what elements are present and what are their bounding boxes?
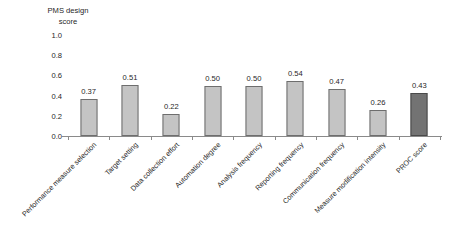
bar-value-label: 0.26 (371, 99, 386, 107)
y-axis-title: PMS design score (26, 6, 110, 27)
bar-group: 0.26 (357, 36, 398, 136)
x-axis-category-label: PROC score (395, 141, 429, 175)
plot-area: 0.00.20.40.60.81.0 0.370.510.220.500.500… (68, 36, 440, 137)
bar[interactable] (411, 93, 428, 136)
bar-series: 0.370.510.220.500.500.540.470.260.43 (68, 36, 440, 136)
bar[interactable] (369, 110, 386, 136)
bar-group: 0.43 (399, 36, 440, 136)
bar-value-label: 0.51 (123, 74, 138, 82)
bar[interactable] (328, 89, 345, 136)
bar[interactable] (204, 86, 221, 137)
bar-group: 0.47 (316, 36, 357, 136)
y-axis-tick-label: 0.6 (51, 72, 62, 80)
bar-group: 0.37 (68, 36, 109, 136)
bar-value-label: 0.37 (81, 88, 96, 96)
bar-value-label: 0.50 (247, 75, 262, 83)
bar[interactable] (287, 81, 304, 136)
x-axis-category-label: Performance measure selection (21, 141, 98, 218)
bar-chart: PMS design score 0.00.20.40.60.81.0 0.37… (0, 0, 451, 239)
x-axis-category-label: Target setting (103, 141, 139, 177)
y-axis-tick-label: 0.4 (51, 93, 62, 101)
bar-group: 0.51 (109, 36, 150, 136)
x-axis-category-labels: Performance measure selectionTarget sett… (68, 137, 440, 237)
bar-value-label: 0.54 (288, 70, 303, 78)
bar-value-label: 0.22 (164, 103, 179, 111)
bar-value-label: 0.47 (329, 78, 344, 86)
bar-value-label: 0.50 (205, 75, 220, 83)
bar[interactable] (245, 86, 262, 137)
bar-group: 0.54 (275, 36, 316, 136)
y-axis-tick-label: 0.2 (51, 113, 62, 121)
bar-group: 0.50 (233, 36, 274, 136)
bar[interactable] (121, 85, 138, 137)
y-axis-tick-label: 1.0 (51, 32, 62, 40)
bar-value-label: 0.43 (412, 82, 427, 90)
y-axis-tick-label: 0.8 (51, 52, 62, 60)
bar[interactable] (163, 114, 180, 136)
y-axis-tick-label: 0.0 (51, 133, 62, 141)
bar-group: 0.22 (151, 36, 192, 136)
bar-group: 0.50 (192, 36, 233, 136)
bar[interactable] (80, 99, 97, 136)
x-axis-category-label: Measure modification intensity (314, 141, 388, 215)
